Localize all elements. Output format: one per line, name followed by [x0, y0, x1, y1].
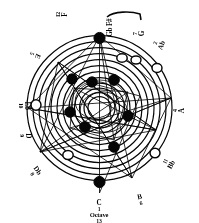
open-node	[152, 64, 162, 73]
note-number-d: 9	[18, 134, 24, 137]
ink-group	[27, 12, 172, 193]
note-number-b: 6	[139, 201, 143, 207]
note-label-f: 12 F	[56, 12, 69, 17]
note-label-eb: Eb 10	[17, 101, 30, 109]
open-node	[117, 54, 127, 62]
filled-node	[80, 122, 91, 133]
filled-node	[94, 32, 105, 43]
filled-node	[94, 176, 105, 187]
chord-web	[28, 36, 171, 194]
octave-caption-block: Octave 13	[90, 212, 109, 223]
note-number-e: 5	[28, 51, 34, 56]
note-number-eb: 10	[17, 103, 23, 108]
note-name-a: A	[179, 108, 186, 113]
open-node	[31, 100, 41, 110]
note-name-d: D	[24, 133, 31, 138]
note-name-g: G	[139, 31, 146, 36]
filled-node	[67, 74, 77, 84]
open-node	[63, 150, 73, 159]
octave-number: 13	[96, 219, 101, 223]
open-node	[150, 148, 160, 158]
note-label-d: D 9	[18, 133, 31, 138]
filled-node	[109, 75, 120, 86]
figure-canvas: 12 F Gb F# 7 G 2 Ab 4 A 11 Bb B 6 C 1 Oc…	[0, 0, 199, 223]
filled-node	[87, 77, 97, 87]
filled-node	[65, 107, 76, 118]
filled-node	[109, 142, 120, 153]
note-label-a: 4 A	[173, 108, 186, 113]
note-label-g: 7 G	[133, 31, 146, 36]
filled-node	[123, 111, 134, 122]
open-node	[131, 56, 141, 64]
note-name-f: F	[62, 13, 69, 17]
chromatic-circle-svg	[0, 0, 199, 223]
note-name-eb: Eb	[22, 101, 29, 109]
note-number-db: 8	[28, 172, 34, 178]
note-label-gb-fsharp: Gb F#	[107, 18, 114, 36]
